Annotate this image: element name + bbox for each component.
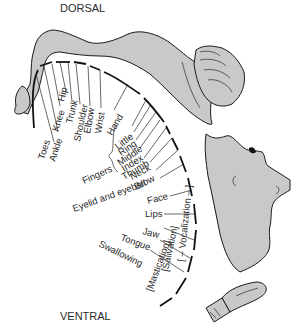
label-jaw: Jaw (142, 225, 161, 240)
label-face: Face (146, 190, 169, 206)
label-vocalization: [ – Vocalization – ] (175, 184, 194, 262)
face-figure (205, 134, 290, 272)
label-hip: Hip (55, 86, 69, 103)
ventral-title: VENTRAL (60, 310, 111, 322)
leg-figure (22, 30, 212, 124)
motor-homunculus-diagram: DORSAL VENTRAL (0, 0, 292, 328)
dorsal-title: DORSAL (60, 2, 105, 14)
label-hand: Hand (104, 112, 125, 137)
tongue-figure (206, 282, 266, 322)
label-fingers: Fingers (80, 163, 114, 186)
label-ankle: Ankle (46, 137, 64, 163)
label-lips: Lips (145, 208, 163, 219)
